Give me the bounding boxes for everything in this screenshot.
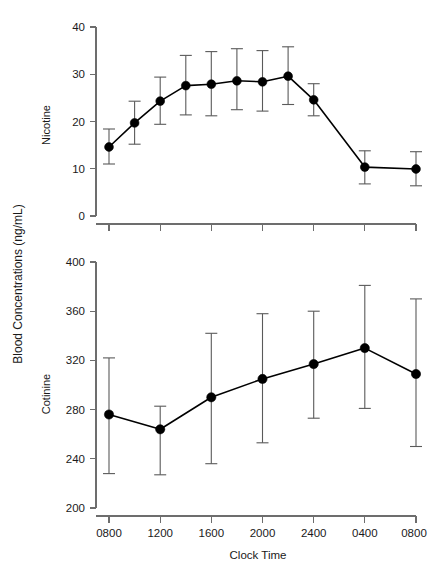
nicotine-panel-label: Nicotine xyxy=(40,105,52,145)
xtick-label-0800-end: 0800 xyxy=(401,527,427,539)
xtick-label-1600: 1600 xyxy=(199,527,225,539)
figure-container: Blood Concentrations (ng/mL) Nicotine 0 … xyxy=(0,0,430,568)
cotinine-ytick-320: 320 xyxy=(66,354,85,366)
nicotine-ytick-20: 20 xyxy=(72,116,85,128)
nicotine-point xyxy=(233,76,242,85)
xtick-label-1200: 1200 xyxy=(147,527,173,539)
xtick-label-2000: 2000 xyxy=(250,527,276,539)
nicotine-point xyxy=(309,95,318,104)
cotinine-point xyxy=(411,369,420,378)
nicotine-point xyxy=(412,165,421,174)
cotinine-panel-label: Cotinine xyxy=(40,374,52,414)
cotinine-x-ticks: 0800 1200 1600 2000 2400 0400 0800 xyxy=(96,516,427,539)
xtick-label-0400: 0400 xyxy=(352,527,378,539)
xtick-label-0800-start: 0800 xyxy=(96,527,122,539)
nicotine-ytick-0: 0 xyxy=(79,210,85,222)
cotinine-point xyxy=(156,425,165,434)
main-y-axis-label: Blood Concentrations (ng/mL) xyxy=(11,204,25,363)
nicotine-ytick-30: 30 xyxy=(72,68,85,80)
panel-cotinine: Cotinine 200 240 280 320 360 400 xyxy=(40,256,427,539)
cotinine-ytick-400: 400 xyxy=(66,256,85,268)
nicotine-point xyxy=(258,77,267,86)
nicotine-y-ticks: 0 10 20 30 40 xyxy=(72,21,96,222)
nicotine-point xyxy=(130,119,139,128)
cotinine-ytick-240: 240 xyxy=(66,453,85,465)
cotinine-ytick-360: 360 xyxy=(66,305,85,317)
cotinine-point xyxy=(104,410,113,419)
nicotine-point xyxy=(207,80,216,89)
cotinine-ytick-280: 280 xyxy=(66,404,85,416)
nicotine-point xyxy=(284,72,293,81)
nicotine-ytick-40: 40 xyxy=(72,21,85,33)
x-axis-title: Clock Time xyxy=(230,549,287,561)
nicotine-error-bars xyxy=(103,47,422,186)
nicotine-ytick-10: 10 xyxy=(72,163,85,175)
chart-svg: Blood Concentrations (ng/mL) Nicotine 0 … xyxy=(0,0,430,568)
nicotine-point xyxy=(181,81,190,90)
nicotine-point xyxy=(105,143,114,152)
cotinine-point xyxy=(360,344,369,353)
cotinine-point xyxy=(258,374,267,383)
xtick-label-2400: 2400 xyxy=(301,527,327,539)
cotinine-point xyxy=(207,393,216,402)
nicotine-point xyxy=(360,163,369,172)
cotinine-ytick-200: 200 xyxy=(66,502,85,514)
nicotine-point xyxy=(156,97,165,106)
cotinine-y-ticks: 200 240 280 320 360 400 xyxy=(66,256,96,514)
cotinine-point xyxy=(309,360,318,369)
panel-nicotine: Nicotine 0 10 20 30 40 xyxy=(40,21,422,231)
nicotine-x-ticks xyxy=(109,224,416,231)
